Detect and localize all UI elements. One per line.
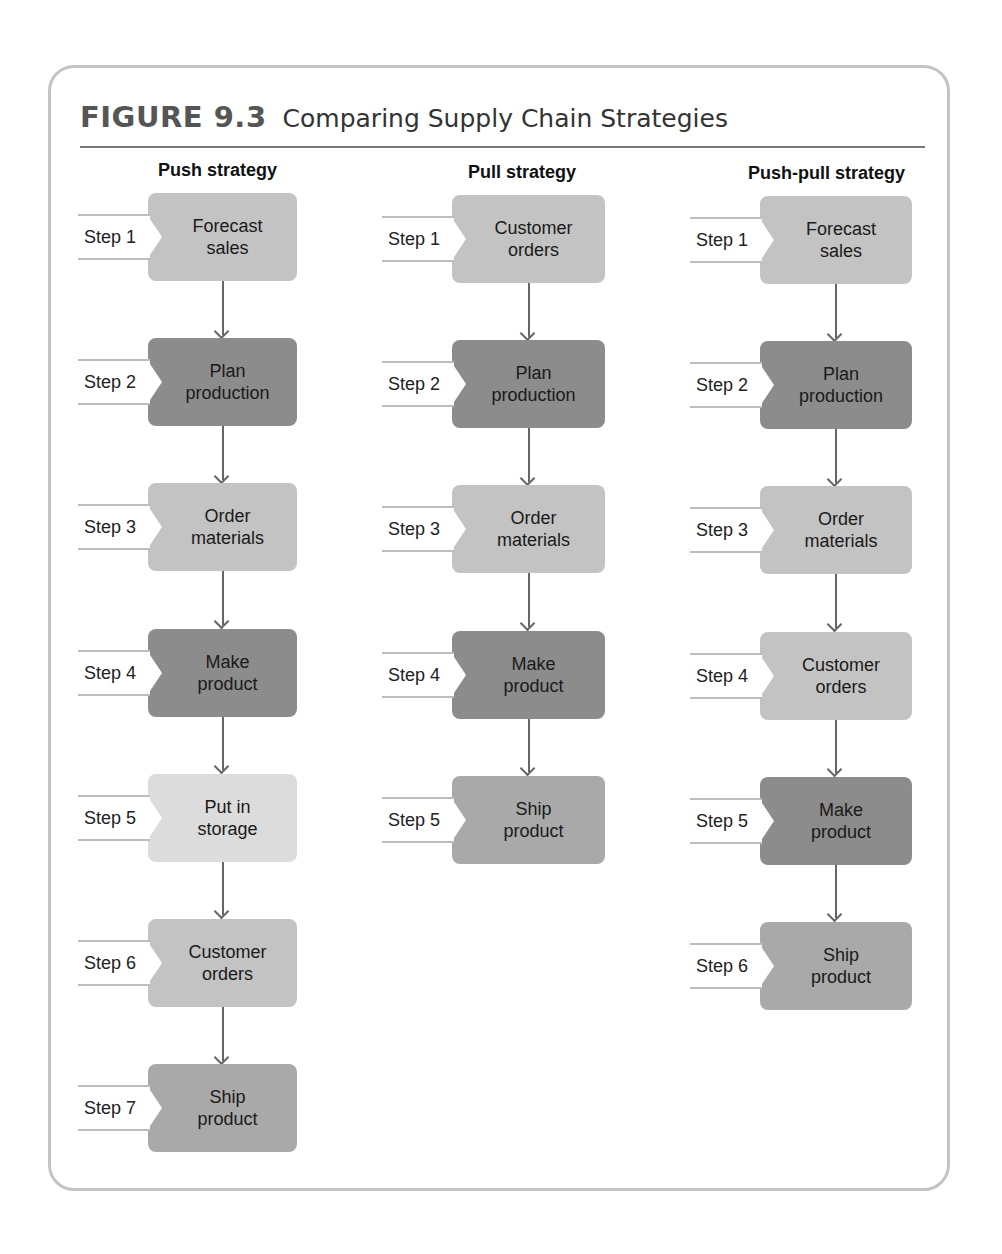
down-arrow-icon [222, 426, 224, 480]
push-strategy-step-7: Ship productStep 7 [78, 1064, 297, 1152]
step-tab: Step 5 [78, 795, 150, 841]
step-box: Order materials [148, 483, 297, 571]
step-label: Step 1 [388, 218, 440, 260]
down-arrow-icon [222, 571, 224, 625]
step-tab: Step 1 [690, 217, 762, 263]
down-arrow-icon [835, 720, 837, 774]
figure-caption: Comparing Supply Chain Strategies [283, 104, 728, 133]
step-label: Step 1 [696, 219, 748, 261]
step-label: Step 5 [84, 797, 136, 839]
down-arrow-icon [528, 283, 530, 337]
chevron-notch [760, 655, 774, 697]
step-label: Step 3 [388, 508, 440, 550]
push-pull-strategy-step-4: Customer ordersStep 4 [690, 632, 912, 720]
step-text: Order materials [794, 508, 877, 552]
step-tab: Step 7 [78, 1085, 150, 1131]
step-tab: Step 4 [690, 653, 762, 699]
chevron-notch [452, 654, 466, 696]
step-tab: Step 4 [78, 650, 150, 696]
step-tab: Step 2 [78, 359, 150, 405]
step-tab: Step 5 [690, 798, 762, 844]
down-arrow-icon [222, 1007, 224, 1061]
down-arrow-icon [835, 429, 837, 483]
down-arrow-icon [528, 573, 530, 627]
step-label: Step 1 [84, 216, 136, 258]
step-box: Customer orders [760, 632, 912, 720]
step-box: Plan production [148, 338, 297, 426]
step-box: Order materials [452, 485, 605, 573]
step-text: Make product [493, 653, 563, 697]
step-tab: Step 6 [78, 940, 150, 986]
step-label: Step 5 [696, 800, 748, 842]
step-tab: Step 3 [382, 506, 454, 552]
step-box: Forecast sales [148, 193, 297, 281]
step-text: Customer orders [792, 654, 880, 698]
pull-strategy-heading: Pull strategy [468, 162, 576, 183]
chevron-notch [760, 945, 774, 987]
step-box: Customer orders [148, 919, 297, 1007]
chevron-notch [148, 216, 162, 258]
step-text: Plan production [481, 362, 575, 406]
push-pull-strategy-step-3: Order materialsStep 3 [690, 486, 912, 574]
step-tab: Step 4 [382, 652, 454, 698]
step-box: Make product [760, 777, 912, 865]
pull-strategy-step-4: Make productStep 4 [382, 631, 605, 719]
chevron-notch [760, 800, 774, 842]
down-arrow-icon [528, 719, 530, 773]
step-label: Step 2 [84, 361, 136, 403]
step-tab: Step 1 [78, 214, 150, 260]
step-tab: Step 3 [690, 507, 762, 553]
step-box: Customer orders [452, 195, 605, 283]
chevron-notch [148, 1087, 162, 1129]
step-box: Forecast sales [760, 196, 912, 284]
step-text: Ship product [187, 1086, 257, 1130]
down-arrow-icon [222, 717, 224, 771]
push-strategy-heading: Push strategy [158, 160, 277, 181]
figure-number: FIGURE 9.3 [80, 100, 267, 134]
step-text: Forecast sales [182, 215, 262, 259]
step-text: Customer orders [484, 217, 572, 261]
push-pull-strategy-step-5: Make productStep 5 [690, 777, 912, 865]
step-box: Make product [148, 629, 297, 717]
step-box: Order materials [760, 486, 912, 574]
step-label: Step 7 [84, 1087, 136, 1129]
push-pull-strategy-heading: Push-pull strategy [748, 163, 905, 184]
step-box: Ship product [148, 1064, 297, 1152]
step-tab: Step 6 [690, 943, 762, 989]
step-text: Order materials [181, 505, 264, 549]
chevron-notch [148, 361, 162, 403]
down-arrow-icon [835, 284, 837, 338]
push-pull-strategy-step-6: Ship productStep 6 [690, 922, 912, 1010]
pull-strategy-step-2: Plan productionStep 2 [382, 340, 605, 428]
step-text: Put in storage [187, 796, 257, 840]
step-text: Ship product [801, 944, 871, 988]
down-arrow-icon [835, 865, 837, 919]
down-arrow-icon [222, 862, 224, 916]
down-arrow-icon [222, 281, 224, 335]
step-tab: Step 2 [690, 362, 762, 408]
step-label: Step 2 [388, 363, 440, 405]
step-label: Step 5 [388, 799, 440, 841]
down-arrow-icon [528, 428, 530, 482]
step-label: Step 6 [696, 945, 748, 987]
chevron-notch [760, 509, 774, 551]
step-text: Make product [187, 651, 257, 695]
step-box: Put in storage [148, 774, 297, 862]
chevron-notch [452, 218, 466, 260]
push-pull-strategy-step-2: Plan productionStep 2 [690, 341, 912, 429]
push-strategy-step-5: Put in storageStep 5 [78, 774, 297, 862]
chevron-notch [148, 506, 162, 548]
pull-strategy-step-5: Ship productStep 5 [382, 776, 605, 864]
chevron-notch [148, 652, 162, 694]
step-box: Make product [452, 631, 605, 719]
step-text: Ship product [493, 798, 563, 842]
push-strategy-step-4: Make productStep 4 [78, 629, 297, 717]
step-text: Forecast sales [796, 218, 876, 262]
push-strategy-step-3: Order materialsStep 3 [78, 483, 297, 571]
step-label: Step 4 [388, 654, 440, 696]
push-strategy-step-6: Customer ordersStep 6 [78, 919, 297, 1007]
chevron-notch [760, 219, 774, 261]
step-box: Ship product [760, 922, 912, 1010]
chevron-notch [760, 364, 774, 406]
step-label: Step 3 [696, 509, 748, 551]
